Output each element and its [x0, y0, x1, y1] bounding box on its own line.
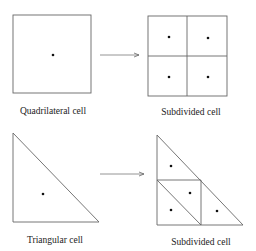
cell-center-dot [42, 193, 45, 196]
label-subdivided-tri-cell: Subdivided cell [171, 237, 231, 247]
cell-center-dot [207, 37, 210, 40]
subdivision-diagram: Quadrilateral cell Subdivided cell Trian… [0, 0, 256, 251]
cell-center-dot [170, 209, 173, 212]
cell-center-dot [189, 192, 192, 195]
label-subdivided-quad-cell: Subdivided cell [161, 107, 221, 117]
cell-center-dot [168, 36, 171, 39]
label-triangular-cell: Triangular cell [27, 235, 83, 245]
cell-center-dot [170, 165, 173, 168]
quadrilateral-cell [13, 15, 91, 93]
cell-center-dot [168, 76, 171, 79]
label-quadrilateral-cell: Quadrilateral cell [20, 106, 87, 116]
cell-center-dot [207, 76, 210, 79]
cell-center-dot [52, 54, 55, 57]
cell-center-dot [216, 210, 219, 213]
subdivided-quadrilateral-cell [148, 16, 227, 96]
subdivided-triangular-cell [157, 135, 243, 225]
triangular-cell [13, 133, 99, 222]
